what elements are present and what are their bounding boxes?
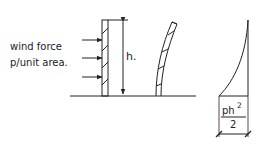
straight-wall <box>102 20 108 96</box>
moment-denominator: 2 <box>230 119 236 130</box>
wind-label-line1: wind force <box>10 41 62 52</box>
wind-label-line2: p/unit area. <box>10 57 68 68</box>
height-dimension <box>108 20 128 94</box>
moment-numerator: ph <box>222 105 235 116</box>
height-label: h. <box>126 50 136 63</box>
moment-exponent: 2 <box>237 101 242 110</box>
deflected-wall <box>156 22 177 96</box>
cantilever-wind-diagram: wind force p/unit area. h. <box>0 0 260 150</box>
